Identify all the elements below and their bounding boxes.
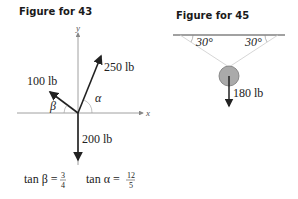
- beta-label: β: [49, 99, 56, 113]
- force-250-label: 250 lb: [104, 60, 134, 74]
- figure-45: 30° 30° 180 lb: [173, 35, 285, 106]
- beta-arc: [64, 105, 67, 113]
- y-axis-label: y: [75, 23, 80, 33]
- tan-alpha-den: 5: [129, 181, 133, 190]
- alpha-arc: [84, 100, 92, 113]
- left-angle-label: 30°: [195, 35, 213, 49]
- force-100-label: 100 lb: [27, 74, 57, 88]
- force-200-label: 200 lb: [82, 132, 112, 146]
- tan-alpha-lhs: tan α =: [86, 172, 120, 186]
- weight-label: 180 lb: [233, 86, 263, 100]
- figure-43: x y 250 lb α 100 lb β 200 lb tan β = 3 4…: [17, 23, 150, 190]
- diagram-canvas: x y 250 lb α 100 lb β 200 lb tan β = 3 4…: [0, 0, 298, 199]
- tan-beta-num: 3: [61, 171, 65, 180]
- tan-alpha-num: 12: [127, 171, 135, 180]
- tan-beta-den: 4: [61, 181, 65, 190]
- right-angle-label: 30°: [244, 35, 262, 49]
- x-axis-label: x: [145, 108, 150, 118]
- tan-beta-lhs: tan β =: [24, 172, 58, 186]
- alpha-label: α: [95, 91, 102, 105]
